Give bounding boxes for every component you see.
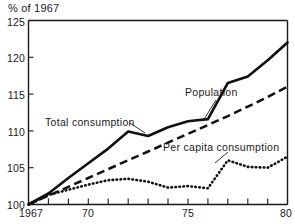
- x-tick-label-80: 80: [280, 207, 292, 219]
- annotation-total-consumption: Total consumption: [45, 116, 135, 128]
- annotation-population: Population: [185, 86, 238, 98]
- annotation-per-capita-consumption: Per capita consumption: [163, 141, 279, 153]
- series-line-per-capita-consumption: [29, 157, 288, 205]
- chart-plot-area: [0, 0, 295, 224]
- y-tick-label-120: 120: [0, 52, 25, 64]
- y-tick-label-125: 125: [0, 16, 25, 28]
- x-tick-label-70: 70: [82, 207, 94, 219]
- x-axis-ticks: [29, 199, 288, 205]
- y-tick-label-110: 110: [0, 126, 25, 138]
- y-axis-ticks: [29, 21, 34, 205]
- y-tick-label-115: 115: [0, 89, 25, 101]
- x-tick-label-75: 75: [182, 207, 194, 219]
- chart-container: % of 1967: [0, 0, 295, 224]
- x-tick-label-1967: 1967: [19, 207, 43, 219]
- y-tick-label-105: 105: [0, 162, 25, 174]
